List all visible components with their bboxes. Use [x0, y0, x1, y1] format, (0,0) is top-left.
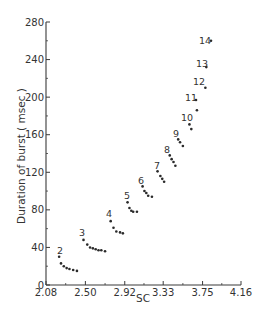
data-point	[112, 226, 115, 229]
x-tick-label: 2.92	[114, 287, 136, 298]
data-point	[132, 210, 135, 213]
cluster-label: 4	[106, 208, 112, 219]
y-tick-label: 40	[31, 242, 44, 253]
data-point	[122, 232, 125, 235]
data-point	[170, 158, 173, 161]
cluster-label: 14	[199, 35, 211, 46]
data-point	[126, 201, 129, 204]
data-point	[196, 109, 199, 112]
axes	[46, 22, 241, 285]
data-point	[172, 161, 175, 164]
data-point	[174, 164, 177, 167]
data-point	[136, 210, 139, 213]
x-axis-title: SC	[136, 292, 150, 304]
cluster-label: 10	[181, 112, 193, 123]
x-tick-label: 3.75	[191, 287, 213, 298]
y-tick-label: 200	[25, 92, 44, 103]
data-point	[60, 262, 63, 265]
data-point	[128, 207, 131, 210]
data-point	[104, 250, 107, 253]
data-point	[182, 145, 185, 148]
y-tick-label: 160	[25, 129, 44, 140]
x-tick-label: 4.16	[230, 287, 252, 298]
cluster-label: 2	[57, 245, 63, 256]
data-point	[76, 270, 79, 273]
data-point	[92, 247, 95, 250]
data-point	[115, 230, 118, 233]
x-tick-label: 3.33	[152, 287, 174, 298]
data-point	[89, 246, 92, 249]
data-point	[72, 269, 75, 272]
cluster-labels: 234567891011121314	[57, 35, 211, 256]
cluster-label: 6	[138, 175, 144, 186]
data-point	[100, 249, 103, 252]
data-point	[97, 249, 100, 252]
y-tick-label: 280	[25, 17, 44, 28]
data-point	[68, 268, 71, 271]
data-point	[143, 190, 146, 193]
data-point	[82, 239, 85, 242]
data-point	[109, 220, 112, 223]
data-point	[190, 128, 193, 131]
data-point	[151, 195, 154, 198]
data-point	[94, 248, 97, 251]
data-point	[65, 267, 68, 270]
data-point	[163, 180, 166, 183]
cluster-label: 7	[154, 160, 160, 171]
y-tick-label: 80	[31, 204, 44, 215]
cluster-label: 9	[173, 128, 179, 139]
cluster-label: 12	[193, 76, 205, 87]
cluster-label: 13	[196, 58, 208, 69]
data-point	[147, 194, 150, 197]
y-axis-title: Duration of burst ( msec )	[15, 88, 27, 224]
scatter-chart: 2.082.502.923.333.754.16 040801201602002…	[0, 0, 259, 322]
cluster-label: 3	[79, 227, 85, 238]
data-point	[63, 265, 66, 268]
cluster-label: 5	[124, 190, 130, 201]
data-point	[161, 178, 164, 181]
y-tick-label: 0	[38, 280, 44, 291]
x-tick-label: 2.50	[74, 287, 96, 298]
y-tick-label: 240	[25, 54, 44, 65]
data-point	[179, 141, 182, 144]
data-point	[86, 243, 89, 246]
data-point	[188, 123, 191, 126]
cluster-label: 11	[185, 92, 197, 103]
y-tick-label: 120	[25, 167, 44, 178]
data-point	[145, 192, 148, 195]
cluster-label: 8	[164, 144, 170, 155]
data-point	[119, 231, 122, 234]
data-point	[159, 175, 162, 178]
